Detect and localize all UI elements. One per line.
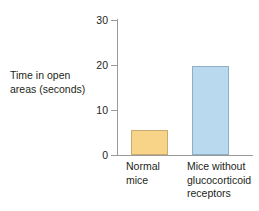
- y-tick-mark-30: [111, 20, 117, 21]
- y-tick-mark-10: [111, 110, 117, 111]
- x-category-label-normal-mice: Normal mice: [126, 160, 184, 187]
- y-axis-title: Time in open areas (seconds): [10, 69, 102, 96]
- y-tick-mark-20: [111, 65, 117, 66]
- y-tick-label-0: 0: [102, 149, 108, 161]
- y-tick-label-30: 30: [96, 14, 108, 26]
- y-axis-line: [117, 19, 118, 156]
- bar-mice-without-glucocorticoid-receptors: [192, 66, 229, 155]
- y-tick-label-20: 20: [96, 59, 108, 71]
- x-axis-line: [117, 155, 253, 156]
- y-tick-mark-0: [111, 155, 117, 156]
- bar-chart: Time in open areas (seconds) 30 20 10 0 …: [0, 0, 259, 211]
- bar-normal-mice: [131, 130, 168, 155]
- x-category-label-mice-without-glucocorticoid-receptors: Mice without glucocorticoid receptors: [187, 160, 259, 201]
- y-tick-label-10: 10: [96, 104, 108, 116]
